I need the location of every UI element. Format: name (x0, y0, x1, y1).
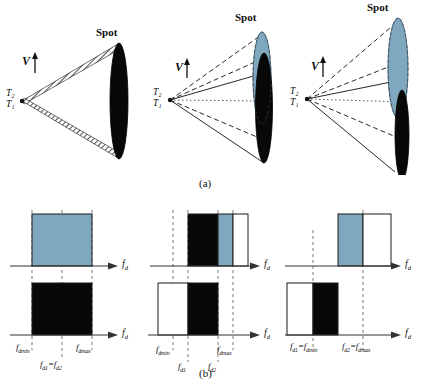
tick-label-dmin: fdmin (156, 345, 170, 356)
ray-solid-1 (170, 73, 264, 100)
tick-label-dmin: fdmin (16, 343, 30, 354)
ray-dashed-2 (307, 62, 401, 99)
ray-dashed-1 (307, 22, 397, 99)
beam-edge-upper (22, 44, 120, 104)
velocity-arrow-head (320, 56, 326, 63)
transmitter-label-t1: T₁ (290, 98, 299, 108)
velocity-arrow-head (184, 58, 190, 65)
bar-lower-white (158, 283, 188, 335)
transmitter-point (20, 99, 24, 103)
figure-root: Spot V T₂ T₁ Spot V T₂ T₁ (0, 0, 421, 388)
axis-lower-arrow (391, 332, 401, 339)
ray-dashed-1 (170, 33, 264, 100)
spot-label: Spot (235, 12, 256, 23)
axis-label-lower: fd (405, 328, 411, 341)
axis-lower-arrow (250, 332, 260, 339)
bar-lower-white (287, 283, 313, 335)
transmitter-point (168, 98, 172, 102)
spectrum-middle-svg (140, 200, 285, 385)
axis-label-upper: fd (122, 259, 128, 272)
axis-label-lower: fd (122, 328, 128, 341)
ray-dashed-2 (170, 58, 264, 100)
spot-label: Spot (367, 2, 388, 13)
bar-lower-black (313, 283, 338, 335)
spectrum-panel-right: fd fd fd1=fdmin fd2=fdmax (285, 200, 421, 385)
geometry-panel-right: Spot V T₂ T₁ (285, 0, 421, 175)
geometry-panel-middle: Spot V T₂ T₁ (140, 0, 285, 175)
tick-label-dmax: fdmax (76, 343, 91, 354)
tick-label-center-equal: fd1=fd2 (40, 360, 62, 371)
axis-lower-arrow (108, 332, 118, 339)
velocity-label: V (22, 55, 30, 67)
ray-dotted-1 (170, 100, 264, 101)
bar-upper-blue (338, 214, 363, 266)
transmitter-label-t2: T₂ (290, 87, 299, 97)
bar-lower-black (32, 283, 92, 335)
velocity-label: V (175, 61, 183, 73)
axis-label-upper: fd (264, 259, 270, 272)
tick-label-dmax: fdmax (217, 345, 232, 356)
axis-upper-arrow (391, 263, 401, 270)
tick-label-d1-equals-dmin: fd1=fdmin (290, 342, 317, 353)
transmitter-label-t1: T₁ (6, 100, 15, 110)
spectrum-panel-middle: fd fd fdmin fdmax fd1 fd2 (140, 200, 285, 385)
geometry-right-svg (285, 0, 421, 175)
geometry-left-svg (0, 0, 140, 175)
axis-upper-arrow (108, 263, 118, 270)
geometry-panel-left: Spot V T₂ T₁ (0, 0, 140, 175)
velocity-arrow-head (32, 52, 38, 59)
ray-solid-1 (307, 80, 401, 99)
velocity-label: V (311, 60, 319, 72)
transmitter-point (305, 97, 309, 101)
ray-solid-2 (307, 99, 395, 172)
bar-upper-black (188, 214, 218, 266)
ray-dashed-3 (307, 99, 403, 140)
spectrum-right-svg (285, 200, 421, 385)
ray-solid-2 (170, 100, 264, 163)
bar-upper-white (363, 214, 391, 266)
spectrum-left-svg (0, 200, 140, 385)
spot-ellipse-black (395, 90, 409, 175)
axis-label-upper: fd (405, 259, 411, 272)
transmitter-label-t2: T₂ (153, 88, 162, 98)
spot-label: Spot (96, 27, 117, 38)
bar-upper-blue (32, 214, 92, 266)
bar-upper-blue (218, 214, 233, 266)
axis-upper-arrow (250, 263, 260, 270)
beam-edge-lower (22, 98, 120, 158)
transmitter-label-t2: T₂ (6, 89, 15, 99)
ray-dashed-3 (170, 100, 264, 140)
tick-label-d1: fd1 (178, 362, 186, 373)
caption-b: (b) (199, 368, 212, 379)
spot-ellipse-black (256, 53, 273, 163)
tick-label-d2-equals-dmax: fd2=fdmax (342, 342, 370, 353)
transmitter-label-t1: T₁ (153, 99, 162, 109)
caption-a: (a) (199, 178, 211, 189)
bar-upper-white (233, 214, 248, 266)
axis-label-lower: fd (264, 328, 270, 341)
spot-ellipse (110, 43, 128, 159)
bar-lower-black (188, 283, 218, 335)
spectrum-panel-left: fd fd fdmin fdmax fd1=fd2 (0, 200, 140, 385)
